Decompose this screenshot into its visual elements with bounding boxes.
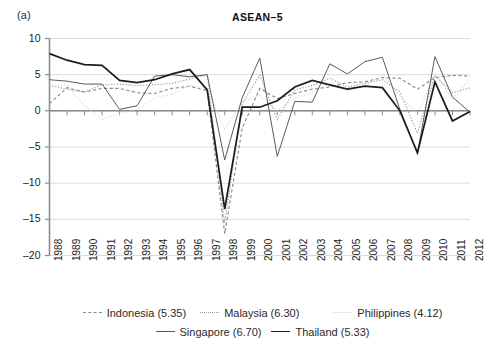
x-tick-label: 2012 [475,238,485,260]
x-tick-label: 1997 [212,238,222,260]
x-tick-label: 2000 [264,238,274,260]
x-tick-label: 1994 [159,238,169,260]
x-tick-label: 1990 [89,238,99,260]
series-line-thailand [50,54,471,210]
y-tick-label: 10 [11,33,41,44]
x-tick-label: 1991 [107,238,117,260]
legend-item-singapore: Singapore (6.70) [156,326,262,338]
x-tick-label: 1998 [229,238,239,260]
y-tick-label: –10 [11,177,41,188]
thin-solid-line-icon [156,328,175,336]
series-line-philippines [50,73,471,129]
x-tick-label: 2003 [317,238,327,260]
legend-label-malaysia: Malaysia (6.30) [224,307,299,319]
legend-label-indonesia: Indonesia (5.35) [107,307,187,319]
x-tick-label: 1989 [72,238,82,260]
legend-row-top: Indonesia (5.35) Malaysia (6.30) Philipp… [45,303,480,322]
x-tick-label: 2002 [299,238,309,260]
y-tick-label: –5 [11,141,41,152]
x-tick-label: 2011 [457,239,467,261]
x-tick-label: 1996 [194,238,204,260]
x-tick-label: 2009 [422,238,432,260]
x-tick-label: 1988 [54,238,64,260]
x-tick-label: 1992 [124,238,134,260]
series-lines [50,54,471,234]
chart-legend: Indonesia (5.35) Malaysia (6.30) Philipp… [45,303,480,341]
x-tick-label: 2006 [369,238,379,260]
legend-item-malaysia: Malaysia (6.30) [200,307,299,319]
dotted-line-icon [200,309,219,317]
legend-item-indonesia: Indonesia (5.35) [83,307,187,319]
legend-item-thailand: Thailand (5.33) [271,326,369,338]
y-tick-label: 0 [11,105,41,116]
gridlines [50,39,471,256]
y-tick-label: –15 [11,213,41,224]
x-tick-label: 1995 [177,238,187,260]
x-tick-label: 2008 [404,238,414,260]
x-tick-label: 2005 [352,238,362,260]
legend-label-singapore: Singapore (6.70) [180,326,262,338]
y-tick-label: 5 [11,69,41,80]
series-line-malaysia [50,75,471,223]
legend-label-thailand: Thailand (5.33) [295,326,369,338]
series-line-singapore [50,57,471,160]
figure-asean-5-chart: (a) ASEAN–5 1050–5–10–15–20 198819891990… [0,0,504,356]
legend-item-philippines: Philippines (4.12) [333,307,442,319]
x-tick-label: 1993 [142,238,152,260]
x-tick-label: 1999 [247,238,257,260]
x-tick-label: 2010 [439,238,449,260]
x-tick-label: 2001 [282,238,292,260]
x-tick-label: 2007 [387,238,397,260]
thick-solid-line-icon [271,328,290,336]
faint-dotted-line-icon [333,309,352,317]
legend-row-bottom: Singapore (6.70) Thailand (5.33) [45,322,480,341]
y-tick-label: –20 [11,250,41,261]
legend-label-philippines: Philippines (4.12) [357,307,442,319]
dashed-line-icon [83,309,102,317]
x-tick-label: 2004 [334,238,344,260]
